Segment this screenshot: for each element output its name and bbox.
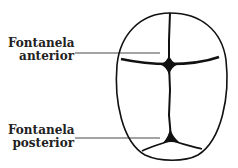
skull-diagram: [0, 0, 238, 168]
anterior-fontanelle: [160, 55, 178, 75]
posterior-fontanelle: [163, 128, 180, 143]
sagittal-suture: [169, 13, 171, 138]
